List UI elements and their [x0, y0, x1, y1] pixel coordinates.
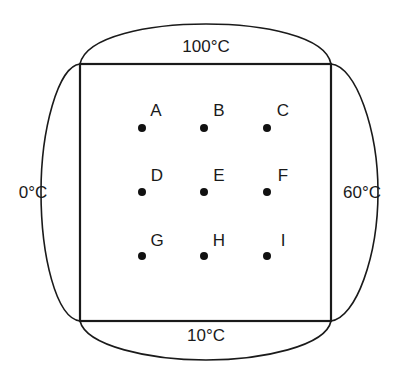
point-label: I — [281, 231, 286, 250]
point-h: H — [200, 231, 225, 261]
point-label: D — [151, 166, 163, 185]
point-d: D — [138, 166, 163, 197]
point-label: H — [213, 231, 225, 250]
left-temperature-label: 0°C — [19, 183, 48, 202]
point-c: C — [263, 101, 289, 133]
point-label: B — [213, 101, 224, 120]
point-label: E — [213, 166, 224, 185]
point-dot — [263, 252, 271, 260]
point-label: F — [278, 166, 288, 185]
heat-plate-diagram: 100°C 10°C 0°C 60°C A B C D E F G H I — [0, 0, 416, 367]
point-dot — [263, 124, 271, 132]
point-e: E — [200, 166, 225, 197]
point-dot — [200, 188, 208, 196]
point-dot — [138, 188, 146, 196]
point-g: G — [138, 231, 164, 261]
bottom-temperature-label: 10°C — [187, 326, 225, 345]
point-dot — [263, 188, 271, 196]
point-i: I — [263, 231, 285, 261]
right-temperature-label: 60°C — [343, 183, 381, 202]
point-dot — [138, 124, 146, 132]
point-label: A — [150, 101, 162, 120]
point-dot — [138, 252, 146, 260]
point-b: B — [200, 101, 225, 133]
point-dot — [200, 124, 208, 132]
top-temperature-label: 100°C — [182, 37, 229, 56]
point-f: F — [263, 166, 288, 197]
point-dot — [200, 252, 208, 260]
point-label: C — [277, 101, 289, 120]
point-a: A — [138, 101, 162, 133]
point-label: G — [150, 231, 163, 250]
